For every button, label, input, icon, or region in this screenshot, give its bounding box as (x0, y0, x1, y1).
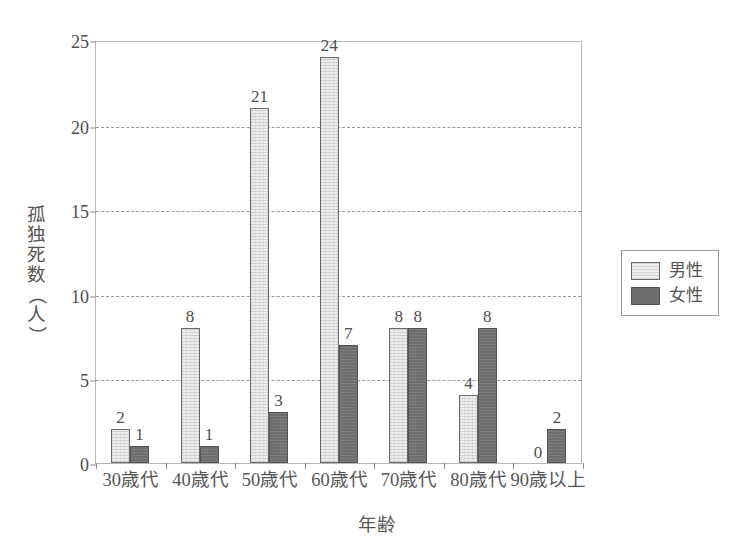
y-axis-title-char-0: 孤 (24, 206, 48, 226)
y-axis-title-char-6: ） (26, 324, 46, 348)
x-tick-mark-5 (444, 463, 445, 469)
bar-male-60s[interactable]: 24 (320, 57, 339, 463)
y-tick-label-25: 25 (71, 33, 89, 51)
legend: 男性 女性 (621, 250, 719, 316)
bar-value-male-50s: 21 (251, 88, 268, 105)
x-tick-label-40s: 40歳代 (172, 471, 229, 490)
x-tick-label-30s: 30歳代 (103, 471, 160, 490)
y-axis-title-char-4: （ (26, 284, 46, 308)
x-tick-label-80s: 80歳代 (450, 471, 507, 490)
bar-female-90plus[interactable]: 2 (547, 429, 566, 463)
bar-value-female-30s: 1 (135, 426, 144, 443)
bar-female-80s[interactable]: 8 (478, 328, 497, 463)
bar-value-male-30s: 2 (116, 409, 125, 426)
bar-female-60s[interactable]: 7 (339, 345, 358, 463)
x-tick-label-90plus: 90歳以上 (510, 471, 586, 490)
y-tick-label-20: 20 (71, 119, 89, 137)
bar-value-male-60s: 24 (321, 37, 338, 54)
bar-value-female-70s: 8 (414, 308, 423, 325)
bar-male-80s[interactable]: 4 (459, 395, 478, 463)
legend-label-male: 男性 (669, 262, 703, 279)
y-axis-title-char-1: 独 (24, 226, 48, 246)
bar-female-30s[interactable]: 1 (130, 446, 149, 463)
bar-male-40s[interactable]: 8 (181, 328, 200, 463)
x-tick-mark-4 (374, 463, 375, 469)
y-axis-title-char-5: 人 (24, 306, 48, 326)
x-tick-mark-6 (513, 463, 514, 469)
x-tick-mark-2 (235, 463, 236, 469)
legend-item-female[interactable]: 女性 (631, 283, 718, 308)
bar-male-30s[interactable]: 2 (111, 429, 130, 463)
x-tick-label-60s: 60歳代 (311, 471, 368, 490)
legend-label-female: 女性 (669, 287, 703, 304)
x-axis-title: 年齢 (0, 510, 753, 536)
legend-swatch-female-icon (631, 287, 660, 305)
legend-swatch-male-icon (631, 262, 660, 280)
x-tick-mark-7 (583, 463, 584, 469)
bar-value-male-80s: 4 (464, 375, 473, 392)
bar-value-male-90plus: 0 (534, 444, 543, 461)
bar-value-female-90plus: 2 (553, 409, 562, 426)
y-tick-label-10: 10 (71, 288, 89, 306)
legend-item-male[interactable]: 男性 (631, 258, 718, 283)
y-tick-label-5: 5 (80, 372, 89, 390)
x-tick-mark-1 (166, 463, 167, 469)
x-tick-mark-0 (96, 463, 97, 469)
bar-chart-figure: 孤 独 死 数 （ 人 ） 5 10 15 20 25 0 (0, 0, 753, 548)
bar-value-female-60s: 7 (344, 325, 353, 342)
plot-area: 5 10 15 20 25 0 30歳代 (95, 41, 582, 464)
bar-value-male-70s: 8 (395, 308, 404, 325)
x-tick-mark-3 (305, 463, 306, 469)
y-tick-label-0: 0 (80, 456, 89, 474)
bar-value-female-40s: 1 (205, 426, 214, 443)
x-tick-label-50s: 50歳代 (242, 471, 299, 490)
bar-value-female-50s: 3 (274, 392, 283, 409)
x-tick-label-70s: 70歳代 (381, 471, 438, 490)
bar-female-40s[interactable]: 1 (200, 446, 219, 463)
bar-female-70s[interactable]: 8 (408, 328, 427, 463)
y-axis-title-char-2: 死 (24, 246, 48, 266)
bar-value-male-40s: 8 (186, 308, 195, 325)
bar-male-70s[interactable]: 8 (389, 328, 408, 463)
y-axis-title: 孤 独 死 数 （ 人 ） (24, 206, 48, 346)
bar-value-female-80s: 8 (483, 308, 492, 325)
bar-male-50s[interactable]: 21 (250, 108, 269, 463)
y-axis-title-char-3: 数 (24, 266, 48, 286)
bar-female-50s[interactable]: 3 (269, 412, 288, 463)
y-tick-label-15: 15 (71, 203, 89, 221)
